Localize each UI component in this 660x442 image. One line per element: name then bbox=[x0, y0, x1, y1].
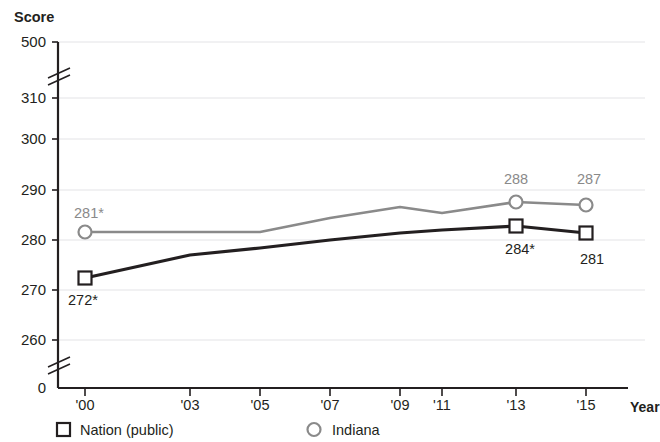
gridlines bbox=[58, 42, 645, 340]
data-label-indiana-15: 287 bbox=[577, 171, 601, 187]
legend-marker-indiana-circle-icon bbox=[308, 423, 321, 436]
marker-indiana-13 bbox=[510, 196, 523, 209]
marker-indiana-00 bbox=[79, 226, 92, 239]
marker-indiana-15 bbox=[580, 199, 593, 212]
xtick-label-05: '05 bbox=[251, 397, 270, 413]
ytick-label-500: 500 bbox=[21, 33, 46, 50]
data-label-indiana-00: 281* bbox=[74, 205, 104, 221]
xtick-label-15: '15 bbox=[577, 397, 596, 413]
chart-svg: 500 310 300 290 280 270 260 0 Score '00 … bbox=[0, 0, 660, 442]
ytick-label-260: 260 bbox=[21, 331, 46, 348]
ytick-label-270: 270 bbox=[21, 281, 46, 298]
ytick-label-280: 280 bbox=[21, 231, 46, 248]
data-label-nation-15: 281 bbox=[580, 251, 604, 267]
ytick-label-300: 300 bbox=[21, 130, 46, 147]
legend-label-indiana: Indiana bbox=[332, 422, 381, 438]
data-label-nation-13: 284* bbox=[505, 241, 535, 257]
data-labels-nation: 272* 284* 281 bbox=[68, 241, 604, 308]
legend-label-nation: Nation (public) bbox=[80, 422, 174, 438]
xtick-label-03: '03 bbox=[181, 397, 200, 413]
marker-nation-00 bbox=[79, 272, 92, 285]
ytick-label-310: 310 bbox=[21, 89, 46, 106]
chart-container: 500 310 300 290 280 270 260 0 Score '00 … bbox=[0, 0, 660, 442]
y-tick-labels: 500 310 300 290 280 270 260 0 bbox=[21, 33, 46, 396]
marker-nation-13 bbox=[510, 220, 523, 233]
x-axis-title: Year bbox=[630, 399, 660, 415]
ytick-label-290: 290 bbox=[21, 181, 46, 198]
xtick-label-07: '07 bbox=[321, 397, 340, 413]
xtick-label-00: '00 bbox=[76, 397, 95, 413]
data-labels-indiana: 281* 288 287 bbox=[74, 171, 601, 221]
data-label-indiana-13: 288 bbox=[504, 171, 528, 187]
ytick-label-0: 0 bbox=[38, 379, 46, 396]
legend: Nation (public) Indiana bbox=[57, 422, 381, 438]
marker-nation-15 bbox=[580, 227, 593, 240]
x-axis bbox=[58, 388, 628, 396]
legend-marker-nation-square-icon bbox=[57, 423, 70, 436]
y-axis-title: Score bbox=[14, 9, 54, 25]
x-tick-labels: '00 '03 '05 '07 '09 '11 '13 '15 bbox=[76, 397, 596, 413]
data-label-nation-00: 272* bbox=[68, 292, 98, 308]
xtick-label-13: '13 bbox=[507, 397, 526, 413]
xtick-label-09: '09 bbox=[391, 397, 410, 413]
xtick-label-11: '11 bbox=[433, 397, 451, 413]
y-axis bbox=[48, 42, 70, 388]
